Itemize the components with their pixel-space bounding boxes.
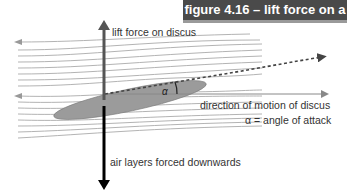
discus-shape <box>51 73 208 127</box>
flow-arrow-icon <box>14 93 22 99</box>
airflow-lines <box>18 34 262 138</box>
down-arrow-icon <box>98 180 110 190</box>
direction-of-motion-label: direction of motion of discus <box>200 99 330 111</box>
air-layers-label: air layers forced downwards <box>110 156 241 168</box>
angle-of-attack-label: α = angle of attack <box>245 114 331 126</box>
lift-arrow-icon <box>98 20 110 30</box>
lift-force-label: lift force on discus <box>112 26 196 38</box>
flow-arrow-icon <box>14 39 22 45</box>
alpha-symbol: α <box>162 86 168 97</box>
